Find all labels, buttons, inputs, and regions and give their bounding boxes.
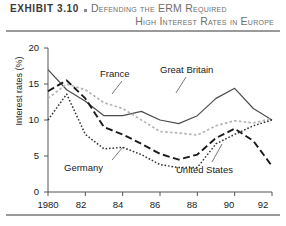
leader-line-great-britain [176, 77, 186, 93]
header-divider-top [6, 30, 280, 32]
title-line-1: EXHIBIT 3.10 Defending the ERM Required [10, 2, 276, 15]
series-group [48, 70, 272, 168]
x-tick-label-82: 82 [70, 200, 92, 210]
series-line-great-britain [48, 70, 272, 124]
y-axis-label: Interest rates (%) [14, 36, 24, 146]
x-tick-label-1980: 1980 [31, 200, 65, 210]
exhibit-title-line1: Defending the ERM Required [91, 2, 227, 14]
exhibit-figure: EXHIBIT 3.10 Defending the ERM Required … [0, 0, 286, 226]
footer-divider-bottom [6, 214, 280, 216]
plot-canvas [0, 34, 286, 212]
series-label-france: France [100, 68, 130, 79]
leader-line-germany [112, 147, 123, 160]
leader-line-united-states [212, 144, 222, 162]
y-tick-label-20: 20 [17, 43, 39, 52]
series-line-germany [48, 80, 272, 166]
x-tick-label-92: 92 [252, 200, 274, 210]
x-tick-label-90: 90 [218, 200, 240, 210]
y-tick-marks [44, 48, 48, 192]
x-tick-marks [48, 192, 272, 196]
leader-line-france [112, 81, 122, 94]
x-tick-label-88: 88 [181, 200, 203, 210]
square-bullet-icon [84, 9, 87, 12]
axes-group [44, 48, 272, 196]
y-tick-label-15: 15 [17, 79, 39, 88]
y-tick-label-5: 5 [17, 151, 39, 160]
exhibit-header: EXHIBIT 3.10 Defending the ERM Required … [0, 0, 286, 32]
annotation-leader-lines [112, 77, 222, 162]
series-label-united-states: United States [176, 164, 233, 175]
line-chart: Interest rates (%) 20 15 10 5 0 1980 82 … [0, 34, 286, 212]
exhibit-title-line2: High Interest Rates in Europe [135, 15, 276, 27]
series-label-germany: Germany [64, 162, 103, 173]
x-tick-label-84: 84 [107, 200, 129, 210]
series-label-great-britain: Great Britain [160, 64, 213, 75]
x-tick-label-86: 86 [144, 200, 166, 210]
exhibit-number-label: EXHIBIT 3.10 [10, 3, 79, 15]
y-tick-label-10: 10 [17, 115, 39, 124]
title-line-2: High Interest Rates in Europe [10, 15, 276, 27]
y-tick-label-0: 0 [17, 187, 39, 196]
